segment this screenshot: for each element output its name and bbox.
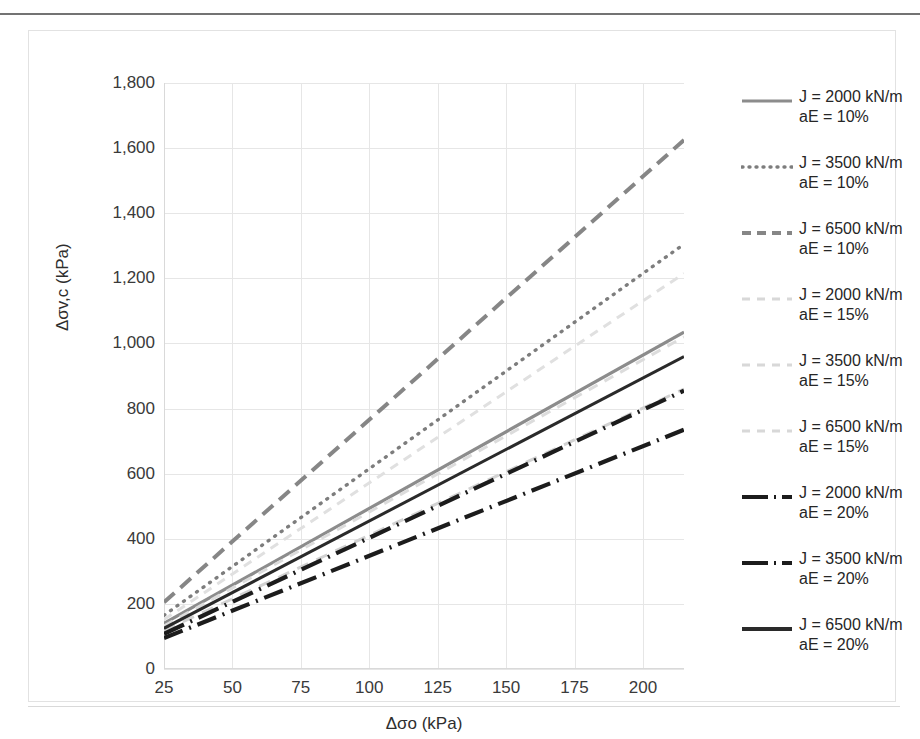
x-axis-tick-label: 100 — [339, 679, 399, 696]
scan-artifact-top-rule — [0, 13, 920, 15]
legend-item[interactable]: J = 6500 kN/maE = 10% — [741, 221, 920, 267]
y-axis-tick-label: 800 — [127, 400, 155, 417]
legend-label-line2: aE = 10% — [799, 173, 920, 193]
y-axis-tick-label: 400 — [127, 530, 155, 547]
legend-label-line1: J = 6500 kN/m — [799, 418, 903, 435]
legend-item[interactable]: J = 2000 kN/maE = 15% — [741, 287, 920, 333]
legend-label-line2: aE = 20% — [799, 635, 920, 655]
series-line — [164, 332, 684, 623]
series-line — [164, 244, 684, 615]
x-axis-tick-label: 200 — [613, 679, 673, 696]
legend: J = 2000 kN/maE = 10%J = 3500 kN/maE = 1… — [741, 89, 920, 689]
y-axis-tick-label: 1,400 — [112, 204, 155, 221]
y-axis-tick-labels: 02004006008001,0001,2001,4001,6001,800 — [69, 83, 155, 669]
legend-label-line2: aE = 15% — [799, 371, 920, 391]
legend-label-line1: J = 3500 kN/m — [799, 154, 903, 171]
y-axis-tick-label: 200 — [127, 595, 155, 612]
legend-label-line2: aE = 10% — [799, 107, 920, 127]
legend-label-line2: aE = 20% — [799, 503, 920, 523]
legend-label-line1: J = 2000 kN/m — [799, 286, 903, 303]
legend-label: J = 3500 kN/maE = 20% — [799, 549, 920, 590]
legend-item[interactable]: J = 3500 kN/maE = 15% — [741, 353, 920, 399]
chart-frame: Δσv,c (kPa) 02004006008001,0001,2001,400… — [28, 30, 896, 702]
legend-label-line2: aE = 15% — [799, 437, 920, 457]
legend-swatch-dash-dot-black — [741, 491, 793, 503]
legend-item[interactable]: J = 6500 kN/maE = 15% — [741, 419, 920, 465]
x-axis-tick-labels: 255075100125150175200 — [164, 679, 684, 703]
x-axis-tick-label: 50 — [202, 679, 262, 696]
x-axis-tick-label: 125 — [408, 679, 468, 696]
y-axis-tick-label: 600 — [127, 465, 155, 482]
legend-label-line2: aE = 20% — [799, 569, 920, 589]
y-axis-tick-label: 1,800 — [112, 74, 155, 91]
legend-label-line1: J = 3500 kN/m — [799, 352, 903, 369]
y-axis-tick-label: 1,200 — [112, 269, 155, 286]
x-axis-tick-label: 175 — [545, 679, 605, 696]
gridline-horizontal — [164, 669, 684, 670]
legend-swatch-dotted-gray — [741, 161, 793, 173]
series-lines — [164, 83, 684, 669]
x-axis-tick-label: 25 — [134, 679, 194, 696]
legend-label-line1: J = 6500 kN/m — [799, 616, 903, 633]
legend-label: J = 2000 kN/maE = 15% — [799, 285, 920, 326]
series-line — [164, 391, 684, 634]
series-line — [164, 337, 684, 626]
legend-label-line1: J = 2000 kN/m — [799, 88, 903, 105]
legend-item[interactable]: J = 2000 kN/maE = 20% — [741, 485, 920, 531]
legend-item[interactable]: J = 2000 kN/maE = 10% — [741, 89, 920, 135]
x-axis-tick-label: 75 — [271, 679, 331, 696]
series-line — [164, 389, 684, 631]
scan-artifact-bottom-rule — [28, 706, 900, 707]
legend-swatch-dashed-light — [741, 293, 793, 305]
legend-swatch-dashed-gray — [741, 227, 793, 239]
series-line — [164, 273, 684, 619]
legend-item[interactable]: J = 3500 kN/maE = 20% — [741, 551, 920, 597]
legend-label: J = 3500 kN/maE = 10% — [799, 153, 920, 194]
y-axis-tick-label: 1,000 — [112, 334, 155, 351]
x-axis-title: Δσo (kPa) — [164, 714, 684, 734]
legend-swatch-solid-black — [741, 623, 793, 635]
legend-label: J = 2000 kN/maE = 10% — [799, 87, 920, 128]
legend-label: J = 6500 kN/maE = 15% — [799, 417, 920, 458]
legend-item[interactable]: J = 6500 kN/maE = 20% — [741, 617, 920, 663]
plot-area — [164, 83, 684, 669]
y-axis-tick-label: 0 — [146, 660, 155, 677]
legend-swatch-dashed-light — [741, 425, 793, 437]
legend-swatch-solid-gray — [741, 95, 793, 107]
legend-label: J = 3500 kN/maE = 15% — [799, 351, 920, 392]
legend-label: J = 2000 kN/maE = 20% — [799, 483, 920, 524]
legend-swatch-dash-dot-black — [741, 557, 793, 569]
legend-label-line2: aE = 15% — [799, 305, 920, 325]
legend-label-line1: J = 6500 kN/m — [799, 220, 903, 237]
legend-label-line1: J = 3500 kN/m — [799, 550, 903, 567]
legend-label-line2: aE = 10% — [799, 239, 920, 259]
series-line — [164, 356, 684, 628]
legend-label: J = 6500 kN/maE = 10% — [799, 219, 920, 260]
legend-swatch-dashed-light — [741, 359, 793, 371]
x-axis-tick-label: 150 — [476, 679, 536, 696]
legend-label-line1: J = 2000 kN/m — [799, 484, 903, 501]
series-line — [164, 430, 684, 638]
legend-item[interactable]: J = 3500 kN/maE = 10% — [741, 155, 920, 201]
legend-label: J = 6500 kN/maE = 20% — [799, 615, 920, 656]
y-axis-tick-label: 1,600 — [112, 139, 155, 156]
